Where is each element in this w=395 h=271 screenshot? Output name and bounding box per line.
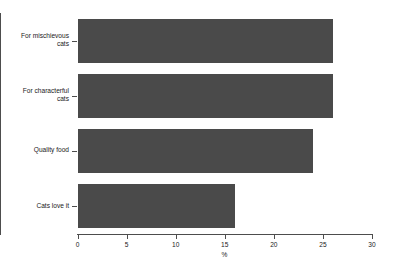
bar bbox=[78, 129, 314, 173]
x-axis-tick-label: 0 bbox=[67, 241, 89, 249]
category-label: For mischievous cats bbox=[3, 32, 69, 49]
y-axis-tick bbox=[72, 96, 77, 97]
x-axis-tick bbox=[127, 235, 128, 239]
x-axis-tick bbox=[78, 235, 79, 239]
y-axis-tick bbox=[72, 151, 77, 152]
x-axis-title-text: % bbox=[222, 251, 228, 258]
x-axis-tick bbox=[274, 235, 275, 239]
bar-chart: For mischievous catsFor characterful cat… bbox=[0, 0, 395, 271]
x-axis-tick bbox=[323, 235, 324, 239]
x-axis-tick-label: 5 bbox=[116, 241, 138, 249]
category-label: For characterful cats bbox=[3, 87, 69, 104]
bar bbox=[78, 74, 333, 118]
category-label: Quality food bbox=[3, 146, 69, 154]
y-axis-tick bbox=[72, 206, 77, 207]
x-axis-tick-label: 20 bbox=[263, 241, 285, 249]
y-axis-line bbox=[0, 13, 1, 235]
category-label: Cats love it bbox=[3, 202, 69, 210]
x-axis-tick-label: 30 bbox=[361, 241, 383, 249]
x-axis-tick-label: 15 bbox=[214, 241, 236, 249]
x-axis-tick-label: 25 bbox=[312, 241, 334, 249]
x-axis-tick-label: 10 bbox=[165, 241, 187, 249]
y-axis-tick bbox=[72, 41, 77, 42]
x-axis-tick bbox=[176, 235, 177, 239]
x-axis-tick bbox=[372, 235, 373, 239]
x-axis-tick bbox=[225, 235, 226, 239]
bar bbox=[78, 184, 235, 228]
bar bbox=[78, 19, 333, 63]
x-axis-title: % bbox=[0, 251, 395, 258]
